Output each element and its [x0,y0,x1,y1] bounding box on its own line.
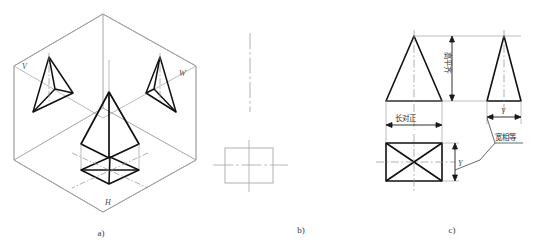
panel-b-group: b) [213,33,305,235]
annotation-width-equal: 宽相等 [495,132,517,142]
v-plane-projection-triangle [33,57,73,112]
panel-c-group: 高平齐 长对正 Y Y [376,30,523,235]
technical-drawing-figure: V W H a) b) [0,0,540,247]
caption-c: c) [449,225,456,235]
panel-a-group: V W H a) [14,14,196,238]
plane-label-h: H [104,198,112,207]
dimension-label-y-side: Y [501,107,507,116]
h-plane-projection-diamond [81,157,139,184]
annotation-height-level: 高平齐 [443,52,453,74]
drawing-canvas: V W H a) b) [0,0,540,247]
caption-b: b) [297,225,305,235]
plane-label-v: V [22,62,28,71]
plane-label-w: W [179,69,187,78]
annotation-length-align: 长对正 [395,113,417,123]
v-plane-edges [14,14,103,118]
caption-a: a) [98,228,105,238]
w-plane-edges [103,14,196,118]
w-plane-projection-triangle [146,57,176,112]
pyramid-solid [81,92,139,158]
width-equal-leader [455,118,523,170]
